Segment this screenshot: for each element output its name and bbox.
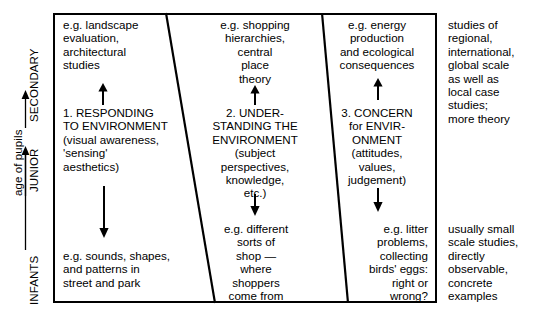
column-1-bottom-example: e.g. sounds, shapes, and patterns in str…	[63, 249, 188, 289]
column-2-heading: 2. UNDER- STANDING THE ENVIRONMENT (subj…	[196, 106, 314, 200]
column-2-top-example: e.g. shopping hierarchies, central place…	[200, 18, 310, 85]
side-note-bottom: usually small scale studies, directly ob…	[448, 222, 548, 302]
column-3-bottom-example: e.g. litter problems, collecting birds' …	[320, 222, 428, 302]
axis-arrow-line	[0, 0, 52, 317]
environment-education-diagram: age of pupils SECONDARY JUNIOR INFANTS e…	[0, 0, 550, 317]
age-of-pupils-axis: age of pupils SECONDARY JUNIOR INFANTS	[0, 0, 52, 317]
column-1-arrow-up-icon	[96, 83, 110, 105]
column-1-heading: 1. RESPONDING TO ENVIRONMENT (visual awa…	[63, 106, 183, 173]
column-1-arrow-down-icon	[97, 186, 111, 238]
column-3-top-example: e.g. energy production and ecological co…	[325, 18, 429, 72]
side-note-top: studies of regional, international, glob…	[448, 18, 548, 125]
column-2-arrow-down-icon	[248, 194, 262, 216]
column-3-heading: 3. CONCERN for ENVIR- ONMENT (attitudes,…	[327, 106, 427, 186]
column-3-arrow-up-icon	[371, 78, 385, 100]
column-2-bottom-example: e.g. different sorts of shop — where sho…	[200, 222, 312, 302]
column-1-top-example: e.g. landscape evaluation, architectural…	[63, 18, 173, 72]
column-3-arrow-down-icon	[371, 188, 385, 212]
column-2-arrow-up-icon	[248, 85, 262, 105]
